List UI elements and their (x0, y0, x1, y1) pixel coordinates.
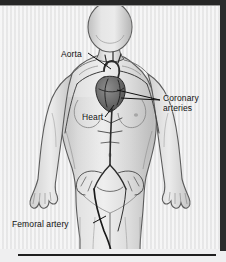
label-femoral-artery: Femoral artery (12, 219, 69, 229)
frame-right-border (220, 0, 226, 251)
bottom-divider-rule (18, 254, 216, 256)
label-coronary-arteries: Coronary arteries (163, 93, 219, 113)
label-heart: Heart (82, 112, 103, 122)
label-coronary-line2: arteries (163, 103, 192, 113)
illustration-page: Aorta Coronary arteries Heart Femoral ar… (0, 0, 226, 262)
label-aorta: Aorta (61, 49, 82, 59)
anatomy-illustration (0, 5, 220, 251)
label-coronary-line1: Coronary (163, 93, 199, 103)
body-silhouette (61, 5, 157, 251)
head (88, 5, 132, 52)
frame-top-highlight (0, 5, 220, 6)
